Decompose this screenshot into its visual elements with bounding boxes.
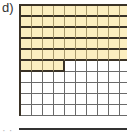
grid-cell [120, 50, 127, 61]
grid-cell [65, 72, 76, 83]
grid-cell [76, 94, 87, 105]
grid-cell [87, 6, 98, 17]
grid-cell [54, 72, 65, 83]
grid-cell [76, 6, 87, 17]
grid-cell [87, 72, 98, 83]
grid-cell [109, 28, 120, 39]
grid-cell [109, 83, 120, 94]
grid-cell [65, 28, 76, 39]
grid-cell [21, 94, 32, 105]
grid-cell [54, 39, 65, 50]
grid-cell [109, 50, 120, 61]
grid-cell [21, 28, 32, 39]
grid-cell [76, 39, 87, 50]
grid-cell [98, 17, 109, 28]
problem-label: d) [2, 1, 14, 15]
grid-cell [43, 50, 54, 61]
grid-cell [120, 61, 127, 72]
grid-cell [54, 61, 65, 72]
grid-cell [54, 6, 65, 17]
grid-cell [32, 105, 43, 116]
grid-cell [21, 6, 32, 17]
grid-cell [32, 39, 43, 50]
grid-cell [120, 39, 127, 50]
grid-cell [98, 105, 109, 116]
grid-cell [43, 6, 54, 17]
grid-cell [98, 50, 109, 61]
grid-cell [87, 83, 98, 94]
grid-cell [87, 50, 98, 61]
grid-cell [76, 105, 87, 116]
grid-cell [21, 61, 32, 72]
grid-cell [76, 83, 87, 94]
grid-cell [43, 72, 54, 83]
grid-cell [65, 83, 76, 94]
next-problem-label: · · [2, 124, 12, 134]
grid-cell [21, 17, 32, 28]
grid-cell [98, 83, 109, 94]
grid-cell [76, 28, 87, 39]
grid-cell [32, 83, 43, 94]
grid-cell [65, 39, 76, 50]
grid-cell [54, 105, 65, 116]
grid-cell [32, 50, 43, 61]
grid-cell [43, 61, 54, 72]
grid-cell [76, 50, 87, 61]
grid-cell [76, 72, 87, 83]
grid-cell [65, 6, 76, 17]
grid-cell [109, 6, 120, 17]
grid-cell [98, 72, 109, 83]
grid-cell [120, 17, 127, 28]
grid-cell [98, 28, 109, 39]
grid-cell [120, 72, 127, 83]
grid-cell [87, 94, 98, 105]
grid-cell [43, 39, 54, 50]
grid-cell [54, 17, 65, 28]
grid-cell [109, 94, 120, 105]
grid-cell [65, 50, 76, 61]
grid-cell [98, 6, 109, 17]
hundred-grid [19, 4, 127, 116]
grid-cell [32, 72, 43, 83]
grid-cell [120, 83, 127, 94]
grid-cell [76, 61, 87, 72]
grid-cell [65, 61, 76, 72]
grid-cell [21, 72, 32, 83]
grid-cell [43, 83, 54, 94]
grid-cell [54, 83, 65, 94]
grid-cell [87, 28, 98, 39]
grid-cell [43, 94, 54, 105]
grid-cell [21, 50, 32, 61]
grid-cell [87, 105, 98, 116]
grid-cell [109, 17, 120, 28]
grid-cell [76, 17, 87, 28]
grid-cell [43, 28, 54, 39]
grid-cell [65, 94, 76, 105]
grid-cell [21, 39, 32, 50]
grid-cell [120, 105, 127, 116]
grid-cell [98, 61, 109, 72]
grid-cell [98, 94, 109, 105]
grid-cell [32, 94, 43, 105]
grid-cell [54, 94, 65, 105]
grid-cell [120, 28, 127, 39]
grid-cell [109, 72, 120, 83]
grid-cell [98, 39, 109, 50]
grid-cell [65, 17, 76, 28]
grid-cell [43, 17, 54, 28]
grid-cell [65, 105, 76, 116]
grid-cell [87, 61, 98, 72]
grid-cell [43, 105, 54, 116]
next-grid-top-edge [19, 128, 127, 130]
grid-cell [32, 61, 43, 72]
grid-cell [87, 39, 98, 50]
grid-cell [21, 105, 32, 116]
grid-cell [32, 17, 43, 28]
grid-cell [54, 50, 65, 61]
grid-cell [120, 94, 127, 105]
grid-cell [54, 28, 65, 39]
grid-cell [87, 17, 98, 28]
grid-cell [21, 83, 32, 94]
grid-cell [120, 6, 127, 17]
grid-cell [32, 28, 43, 39]
